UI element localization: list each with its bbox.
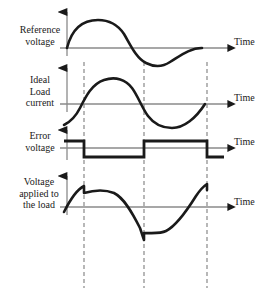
plot-reference-voltage — [60, 12, 228, 66]
curve-error-voltage — [64, 141, 224, 157]
dashed-reference-lines — [84, 62, 207, 288]
waveform-canvas — [0, 0, 276, 295]
curve-voltage-applied-to-load — [64, 184, 207, 240]
curve-reference-voltage — [67, 20, 202, 66]
curve-ideal-load-current — [64, 78, 205, 128]
waveform-diagram: Reference voltage Time Ideal Load curren… — [0, 0, 276, 295]
